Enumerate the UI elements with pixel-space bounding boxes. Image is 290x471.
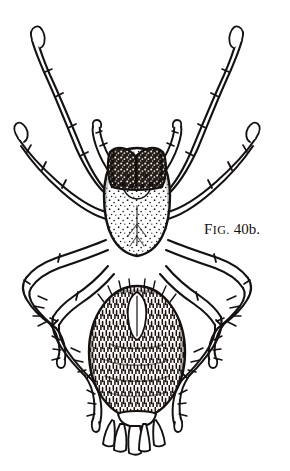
abdomen bbox=[89, 279, 185, 418]
caption-lead: F bbox=[204, 221, 213, 237]
figure-caption: FIG. 40b. bbox=[204, 222, 260, 237]
cephalothorax bbox=[104, 148, 170, 256]
caption-number: 40b. bbox=[234, 221, 260, 237]
spinnerets bbox=[103, 411, 165, 455]
caption-smallcaps: IG. bbox=[213, 223, 230, 237]
head-patch bbox=[108, 148, 166, 190]
spider-body bbox=[14, 26, 259, 454]
figure-plate: FIG. 40b. bbox=[0, 0, 290, 471]
